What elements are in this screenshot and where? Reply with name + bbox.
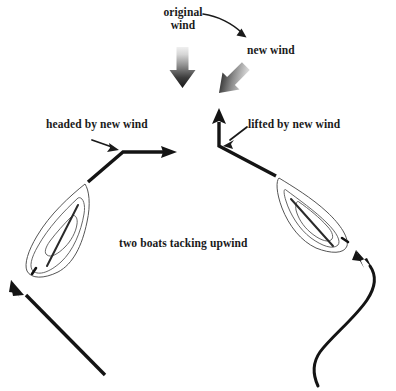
original-wind-arrow-icon <box>170 47 196 88</box>
label-lifted-by-new-wind: lifted by new wind <box>248 118 340 131</box>
label-original-wind-line1: original <box>152 6 214 19</box>
diagram-canvas <box>0 0 396 391</box>
label-original-wind: original wind <box>152 6 214 32</box>
label-headed-by-new-wind: headed by new wind <box>46 118 148 131</box>
left-boat <box>26 184 89 277</box>
headed-pointer-arrow-icon <box>92 140 119 152</box>
left-boat-track-before <box>9 280 105 375</box>
label-two-boats-tacking-upwind: two boats tacking upwind <box>119 237 248 250</box>
right-boat-track-before <box>314 250 374 386</box>
sailing-diagram: original wind new wind headed by new win… <box>0 0 396 391</box>
lifted-pointer-arrow-icon <box>223 127 247 149</box>
left-boat-track-after <box>88 146 177 182</box>
label-new-wind: new wind <box>247 44 295 57</box>
new-wind-arrow-icon <box>210 58 254 102</box>
right-boat <box>277 178 348 252</box>
label-original-wind-line2: wind <box>152 19 214 32</box>
